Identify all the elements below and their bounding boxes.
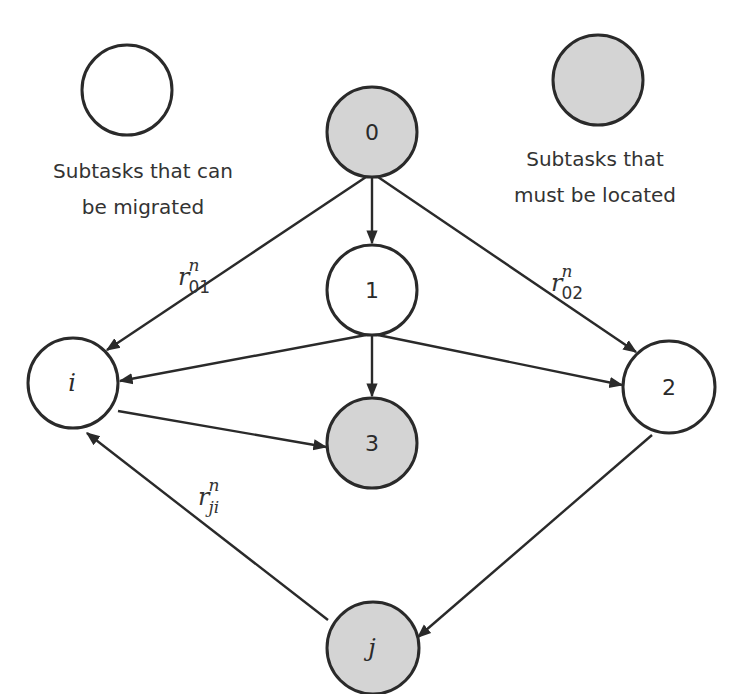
task-graph-diagram: Subtasks that can be migrated Subtasks t… [0,0,744,694]
edge-label-r02-sub: 02 [561,283,583,303]
node-3-label: 3 [365,431,379,456]
node-2-label: 2 [662,375,676,400]
node-j: j [327,602,419,694]
node-i-label: i [68,369,76,397]
edge-2-j [418,435,652,637]
legend-located: Subtasks that must be located [514,35,676,207]
node-0: 0 [327,87,417,177]
edge-label-rji-sup: n [208,475,219,495]
edge-i-3 [118,411,326,447]
svg-text:rnji: rnji [198,475,219,517]
edge-label-r02-sup: n [561,261,572,281]
svg-text:rn01: rn01 [178,255,210,297]
node-i: i [28,338,118,428]
legend-migratable-line2: be migrated [82,195,204,219]
legend-located-circle [553,35,643,125]
legend-migratable-circle [82,45,172,135]
legend-located-line1: Subtasks that [526,147,664,171]
edge-j-i [87,433,328,620]
node-2: 2 [623,341,715,433]
node-1: 1 [327,245,417,335]
node-1-label: 1 [365,278,379,303]
node-0-label: 0 [365,120,379,145]
svg-text:rn02: rn02 [551,261,583,303]
legend-migratable: Subtasks that can be migrated [53,45,233,219]
edge-label-r02: rn02 [551,261,583,303]
edge-label-rji: rnji [198,475,219,517]
node-3: 3 [327,398,417,488]
edge-label-r01: rn01 [178,255,210,297]
edge-label-r01-sup: n [188,255,199,275]
edge-1-2 [378,335,622,385]
edge-label-r01-sub: 01 [188,277,210,297]
legend-located-line2: must be located [514,183,676,207]
legend-migratable-line1: Subtasks that can [53,159,233,183]
edge-1-i [120,335,366,381]
